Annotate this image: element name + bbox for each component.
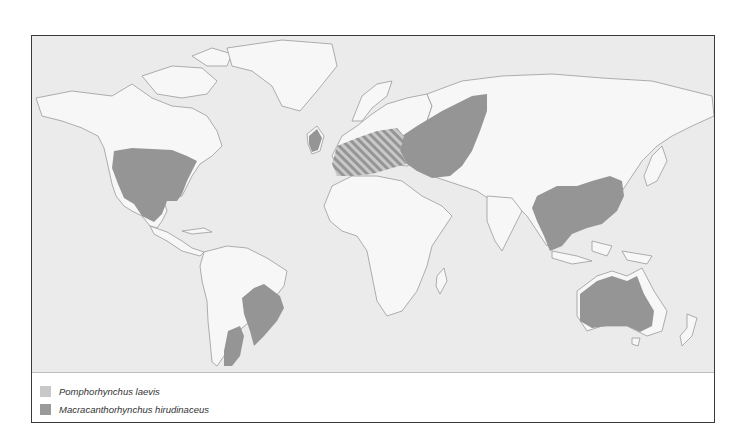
legend-item-macracanthorhynchus: Macracanthorhynchus hirudinaceus — [40, 402, 209, 416]
africa — [324, 176, 452, 316]
map-figure: Pomphorhynchus laevis Macracanthorhynchu… — [31, 35, 715, 423]
new-zealand — [680, 314, 697, 346]
legend-label: Macracanthorhynchus hirudinaceus — [59, 404, 209, 415]
legend-swatch-dark — [40, 404, 51, 415]
legend-item-pomphorhynchus: Pomphorhynchus laevis — [40, 384, 160, 398]
arctic-islands — [142, 66, 217, 98]
legend: Pomphorhynchus laevis Macracanthorhynchu… — [32, 373, 714, 422]
legend-swatch-light — [40, 386, 51, 397]
range-north-america — [112, 148, 197, 222]
greenland — [227, 40, 337, 111]
legend-label: Pomphorhynchus laevis — [59, 386, 160, 397]
world-map-svg — [32, 36, 714, 372]
india — [487, 196, 522, 251]
world-map — [32, 36, 714, 373]
